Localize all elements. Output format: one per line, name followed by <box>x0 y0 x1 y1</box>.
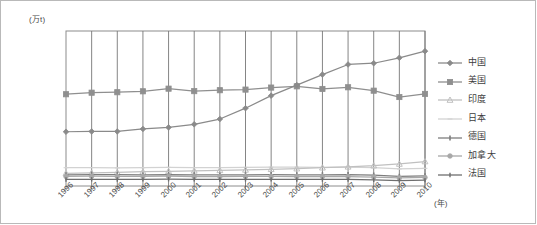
legend-symbol <box>437 150 463 162</box>
data-point-marker <box>89 129 95 135</box>
legend-symbol <box>437 76 463 88</box>
legend-marker-icon <box>437 130 463 142</box>
data-point-marker <box>397 55 403 61</box>
legend-marker-icon <box>437 92 463 104</box>
data-point-marker <box>448 154 453 159</box>
data-point-marker <box>115 90 120 95</box>
data-point-marker <box>166 125 172 131</box>
data-point-marker <box>217 116 223 122</box>
data-point-marker <box>191 122 197 128</box>
data-point-marker <box>63 92 68 97</box>
data-point-marker <box>422 91 427 96</box>
data-point-marker <box>114 129 120 135</box>
data-point-marker <box>243 87 248 92</box>
data-point-marker <box>371 88 376 93</box>
data-point-marker <box>140 89 145 94</box>
legend-item-label: 德国 <box>468 129 487 142</box>
legend-item-日本[interactable]: 日本 <box>437 108 533 127</box>
data-point-marker <box>320 72 326 78</box>
data-point-marker <box>63 129 69 135</box>
legend-item-label: 日本 <box>468 111 487 124</box>
legend-marker-icon <box>437 148 463 160</box>
data-point-marker <box>243 105 249 111</box>
data-point-marker <box>371 60 377 66</box>
legend-item-label: 法国 <box>468 166 487 179</box>
legend-item-法国[interactable]: 法国 <box>437 164 533 183</box>
data-point-marker <box>166 86 171 91</box>
legend-item-印度[interactable]: 印度 <box>437 89 533 108</box>
data-point-marker <box>140 126 146 132</box>
chart-legend: 中国美国印度日本德国加拿大法国 <box>437 52 533 182</box>
data-point-marker <box>268 93 274 99</box>
legend-marker-icon <box>437 167 463 179</box>
data-point-marker <box>397 94 402 99</box>
data-point-marker <box>447 79 452 84</box>
legend-marker-icon <box>437 111 463 123</box>
legend-item-label: 中国 <box>468 55 487 68</box>
legend-symbol <box>437 57 463 69</box>
data-point-marker <box>345 85 350 90</box>
legend-symbol <box>437 169 463 181</box>
data-point-marker <box>345 62 351 68</box>
legend-symbol <box>437 132 463 144</box>
data-point-marker <box>320 86 325 91</box>
legend-symbol <box>437 94 463 106</box>
data-point-marker <box>447 60 453 66</box>
x-axis-unit-label: (年) <box>434 197 447 208</box>
legend-item-label: 印度 <box>468 92 487 105</box>
legend-marker-icon <box>437 55 463 67</box>
data-point-marker <box>89 90 94 95</box>
legend-marker-icon <box>437 74 463 86</box>
data-point-marker <box>422 48 428 54</box>
line-chart: (万t) 10000009000008000007000006000005000… <box>0 0 537 225</box>
legend-item-label: 加拿大 <box>468 148 496 161</box>
data-point-marker <box>192 89 197 94</box>
data-point-marker <box>269 85 274 90</box>
legend-item-label: 美国 <box>468 73 487 86</box>
data-point-marker <box>217 88 222 93</box>
legend-item-美国[interactable]: 美国 <box>437 71 533 90</box>
legend-symbol <box>437 113 463 125</box>
legend-item-中国[interactable]: 中国 <box>437 52 533 71</box>
legend-item-德国[interactable]: 德国 <box>437 126 533 145</box>
legend-item-加拿大[interactable]: 加拿大 <box>437 145 533 164</box>
